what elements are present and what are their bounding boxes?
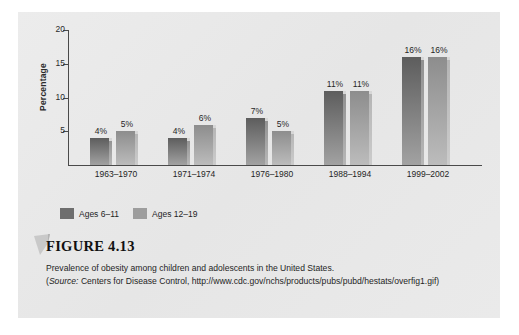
bar-value-label: 11%: [346, 79, 376, 89]
legend-item-ages-6-11[interactable]: Ages 6–11: [60, 208, 119, 219]
bar-group-4: 11% 11% 1988–1994: [324, 30, 376, 165]
plot-region: 20 15 10 5 4%: [68, 30, 482, 166]
bar-group-2: 4% 6% 1971–1974: [168, 30, 220, 165]
source-label: Source:: [49, 276, 79, 286]
y-axis-title: Percentage: [38, 42, 48, 132]
x-category-label-4: 1988–1994: [315, 169, 385, 179]
bar-value-label: 4%: [164, 126, 194, 136]
source-tail: overfig1.gif): [394, 276, 439, 286]
y-tick-label-10: 10: [56, 92, 65, 102]
figure-caption: Prevalence of obesity among children and…: [46, 262, 466, 287]
legend-swatch-icon: [133, 208, 147, 219]
bar-ages6-11-1976-1980[interactable]: 7%: [246, 118, 268, 165]
chart-area: Percentage 20 15 10 5: [18, 12, 500, 192]
bar-ages6-11-1988-1994[interactable]: 11%: [324, 91, 346, 165]
bar-value-label: 5%: [268, 119, 298, 129]
y-tick-label-20: 20: [56, 24, 65, 34]
legend-label: Ages 12–19: [152, 209, 197, 219]
chart-legend: Ages 6–11 Ages 12–19: [60, 208, 197, 219]
figure-panel: Percentage 20 15 10 5: [18, 12, 500, 318]
bar-ages12-19-1976-1980[interactable]: 5%: [272, 131, 294, 165]
bar-value-label: 16%: [424, 45, 454, 55]
bar-group-5: 16% 16% 1999–2002: [402, 30, 454, 165]
bar-group-3: 7% 5% 1976–1980: [246, 30, 298, 165]
bar-ages12-19-1971-1974[interactable]: 6%: [194, 125, 216, 166]
bar-group-1: 4% 5% 1963–1970: [90, 30, 142, 165]
y-tick-label-5: 5: [60, 125, 65, 135]
x-category-label-3: 1976–1980: [237, 169, 307, 179]
legend-swatch-icon: [60, 208, 74, 219]
x-category-label-1: 1963–1970: [81, 169, 151, 179]
source-body: Centers for Disease Control, http://www.…: [79, 276, 395, 286]
legend-label: Ages 6–11: [79, 209, 119, 219]
bar-ages6-11-1971-1974[interactable]: 4%: [168, 138, 190, 165]
bar-ages12-19-1999-2002[interactable]: 16%: [428, 57, 450, 165]
bar-ages12-19-1963-1970[interactable]: 5%: [116, 131, 138, 165]
x-axis-line: [68, 165, 482, 166]
legend-item-ages-12-19[interactable]: Ages 12–19: [133, 208, 197, 219]
bar-ages6-11-1999-2002[interactable]: 16%: [402, 57, 424, 165]
caption-line-1: Prevalence of obesity among children and…: [46, 263, 334, 273]
x-category-label-5: 1999–2002: [393, 169, 463, 179]
figure-title: FIGURE 4.13: [46, 238, 135, 255]
y-tick-label-15: 15: [56, 58, 65, 68]
bar-value-label: 7%: [242, 106, 272, 116]
bar-value-label: 5%: [112, 119, 142, 129]
bar-ages6-11-1963-1970[interactable]: 4%: [90, 138, 112, 165]
x-category-label-2: 1971–1974: [159, 169, 229, 179]
bar-value-label: 6%: [190, 113, 220, 123]
y-axis-line: [68, 30, 69, 166]
bar-ages12-19-1988-1994[interactable]: 11%: [350, 91, 372, 165]
